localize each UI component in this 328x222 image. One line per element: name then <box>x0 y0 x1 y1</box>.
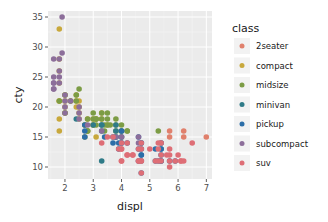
data-point <box>57 128 63 134</box>
x-tick-label: 2 <box>62 183 67 193</box>
data-point <box>51 86 57 92</box>
y-tick-label: 25 <box>32 72 43 82</box>
data-point <box>158 158 164 164</box>
data-point <box>164 152 170 158</box>
data-point <box>136 134 142 140</box>
legend-title: class <box>232 22 260 35</box>
data-point <box>76 116 82 122</box>
legend-label: midsize <box>256 80 289 90</box>
data-point <box>57 74 63 80</box>
data-point <box>74 98 80 104</box>
data-point <box>181 158 187 164</box>
data-point <box>85 122 91 128</box>
data-point <box>139 140 145 146</box>
data-point <box>57 26 63 32</box>
data-point <box>167 134 173 140</box>
data-point <box>62 98 68 104</box>
y-tick-label: 10 <box>32 162 43 172</box>
y-tick-label: 30 <box>32 42 43 52</box>
legend-label: minivan <box>256 100 290 110</box>
legend-item-minivan: minivan <box>234 97 290 113</box>
data-point <box>167 128 173 134</box>
data-point <box>147 146 153 152</box>
legend-item-pickup: pickup <box>234 116 284 132</box>
y-tick-label: 20 <box>32 102 43 112</box>
data-point <box>57 68 63 74</box>
data-point <box>167 158 173 164</box>
legend-item-compact: compact <box>234 58 293 74</box>
data-point <box>124 140 130 146</box>
data-point <box>76 86 82 92</box>
data-point <box>74 92 80 98</box>
data-point <box>93 134 99 140</box>
data-point <box>90 122 96 128</box>
data-point <box>57 80 63 86</box>
data-point <box>175 152 181 158</box>
legend-swatch-icon <box>240 122 245 127</box>
data-point <box>139 170 145 176</box>
data-point <box>167 164 173 170</box>
data-point <box>59 14 65 20</box>
data-point <box>62 92 68 98</box>
legend-item-midsize: midsize <box>234 77 289 93</box>
x-tick-label: 7 <box>204 183 209 193</box>
data-point <box>124 152 130 158</box>
data-point <box>136 146 142 152</box>
data-point <box>90 110 96 116</box>
data-point <box>124 128 130 134</box>
data-point <box>99 158 105 164</box>
data-point <box>181 134 187 140</box>
data-point <box>119 140 125 146</box>
data-point <box>51 56 57 62</box>
data-point <box>105 134 111 140</box>
data-point <box>99 110 105 116</box>
data-point <box>119 134 125 140</box>
legend-swatch-icon <box>240 141 245 146</box>
x-tick-label: 6 <box>175 183 180 193</box>
data-point <box>181 128 187 134</box>
data-point <box>172 158 178 164</box>
data-point <box>158 152 164 158</box>
data-point <box>62 110 68 116</box>
data-point <box>99 140 105 146</box>
data-point <box>59 50 65 56</box>
data-point <box>105 116 111 122</box>
data-point <box>204 134 210 140</box>
legend-label: suv <box>256 158 271 168</box>
legend-item-subcompact: subcompact <box>234 136 309 152</box>
data-point <box>139 152 145 158</box>
legend: class 2seatercompactmidsizeminivanpickup… <box>232 22 309 171</box>
data-point <box>189 140 195 146</box>
data-point <box>51 80 57 86</box>
data-point <box>158 140 164 146</box>
y-axis: 101520253035 <box>32 12 48 172</box>
data-point <box>99 116 105 122</box>
data-point <box>113 122 119 128</box>
data-point <box>57 56 63 62</box>
data-point <box>76 110 82 116</box>
data-point <box>76 104 82 110</box>
scatter-chart: 101520253035 234567 displ cty class 2sea… <box>0 0 328 222</box>
data-point <box>110 134 116 140</box>
data-point <box>116 146 122 152</box>
data-point <box>113 116 119 122</box>
data-point <box>57 98 63 104</box>
legend-label: compact <box>256 61 293 71</box>
legend-item-suv: suv <box>234 155 271 171</box>
data-point <box>105 110 111 116</box>
x-tick-label: 4 <box>119 183 124 193</box>
data-point <box>136 158 142 164</box>
legend-item-2seater: 2seater <box>234 38 289 54</box>
data-point <box>85 116 91 122</box>
legend-label: subcompact <box>256 139 309 149</box>
y-tick-label: 15 <box>32 132 43 142</box>
plot-panel <box>48 11 212 179</box>
y-tick-label: 35 <box>32 12 43 22</box>
legend-swatch-icon <box>240 63 245 68</box>
legend-swatch-icon <box>240 161 245 166</box>
data-point <box>62 104 68 110</box>
x-tick-label: 5 <box>147 183 152 193</box>
data-point <box>119 128 125 134</box>
data-point <box>99 122 105 128</box>
x-axis-title: displ <box>117 200 143 213</box>
